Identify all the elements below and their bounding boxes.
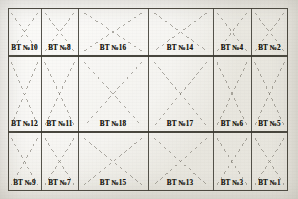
cell-label: ВТ №10 (11, 44, 37, 52)
cell-label: ВТ №9 (13, 179, 36, 187)
cell-label: ВТ №18 (100, 120, 126, 128)
cell-label: ВТ №15 (100, 179, 126, 187)
cell-label: ВТ №8 (48, 44, 71, 52)
cell-label: ВТ №12 (11, 120, 37, 128)
cell-label: ВТ №14 (167, 44, 193, 52)
cell-label: ВТ №11 (47, 120, 73, 128)
grid-plan-diagram: ВТ №10ВТ №8ВТ №16ВТ №14ВТ №4ВТ №2ВТ №12В… (8, 8, 288, 191)
cell-label: ВТ №2 (258, 44, 281, 52)
cell-label: ВТ №17 (167, 120, 193, 128)
cell-label: ВТ №13 (167, 179, 193, 187)
cell-label: ВТ №16 (100, 44, 126, 52)
cell-label: ВТ №5 (258, 120, 281, 128)
cell-label: ВТ №7 (48, 179, 71, 187)
cell-label: ВТ №6 (221, 120, 244, 128)
grid-line-layer (8, 8, 288, 191)
cell-label: ВТ №4 (221, 44, 244, 52)
cell-label: ВТ №1 (258, 179, 281, 187)
cell-label: ВТ №3 (221, 179, 244, 187)
plan-svg-canvas (8, 8, 288, 191)
